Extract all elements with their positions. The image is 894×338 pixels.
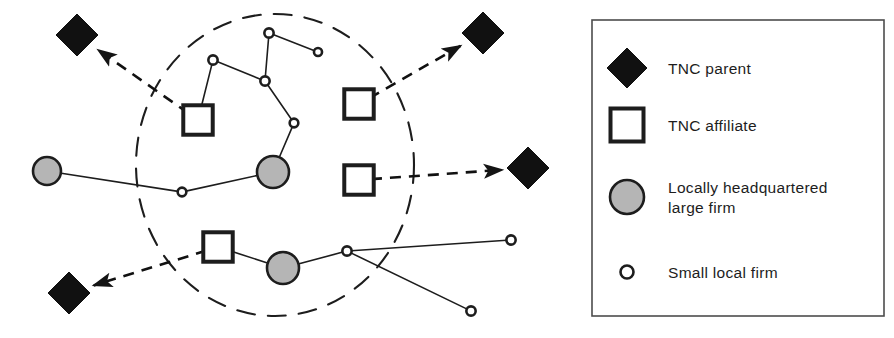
small-local-firm-node xyxy=(208,55,217,64)
legend-label: TNC affiliate xyxy=(668,117,757,134)
firm-link xyxy=(351,253,467,309)
legend-label: Locally headquartered xyxy=(668,179,828,196)
small-local-firm-node xyxy=(264,28,273,37)
tnc-parent-node xyxy=(507,147,549,189)
legend-label-line2: large firm xyxy=(668,199,736,216)
local-large-firm-node xyxy=(267,252,299,284)
tnc-affiliate-node xyxy=(203,232,232,261)
tnc-parent-node xyxy=(462,12,504,54)
legend: TNC parentTNC affiliateLocally headquart… xyxy=(592,20,884,316)
tnc-affiliate-node xyxy=(344,165,373,194)
tnc-parent-node xyxy=(56,14,98,56)
affiliate-to-parent-link xyxy=(369,46,460,98)
firm-link xyxy=(351,240,506,250)
tnc-parent-node xyxy=(48,272,90,314)
legend-label: TNC parent xyxy=(668,60,752,77)
small-local-firm-node xyxy=(506,235,515,244)
local-large-firm-node xyxy=(257,156,289,188)
tnc-affiliate-node xyxy=(344,89,373,118)
parent-affiliate-links xyxy=(94,46,503,286)
legend-label: Small local firm xyxy=(668,264,778,281)
firm-link xyxy=(60,173,178,191)
firm-link xyxy=(273,35,315,51)
firm-link xyxy=(201,64,212,109)
affiliate-to-parent-link xyxy=(371,170,502,179)
local-large-firm-node xyxy=(33,157,61,185)
square-outline-icon xyxy=(611,109,644,142)
small-local-firm-node xyxy=(342,246,351,255)
small-local-firm-node xyxy=(290,119,299,128)
firm-link xyxy=(267,85,291,120)
diagram-canvas: TNC parentTNC affiliateLocally headquart… xyxy=(0,0,894,338)
firm-link xyxy=(297,252,343,264)
small-local-firm-node xyxy=(260,76,269,85)
small-local-firm-node xyxy=(178,188,187,197)
tnc-affiliate-node xyxy=(183,105,212,134)
small-local-firm-node xyxy=(466,306,475,315)
affiliate-to-parent-link xyxy=(94,251,207,286)
small-local-firm-node xyxy=(314,48,322,56)
firm-link xyxy=(217,62,261,80)
firm-link xyxy=(265,37,268,76)
circle-gray-icon xyxy=(610,180,644,214)
firm-link xyxy=(186,175,259,191)
firm-link xyxy=(279,127,293,159)
circle-small-icon xyxy=(621,266,634,279)
network-diagram-svg: TNC parentTNC affiliateLocally headquart… xyxy=(0,0,894,338)
